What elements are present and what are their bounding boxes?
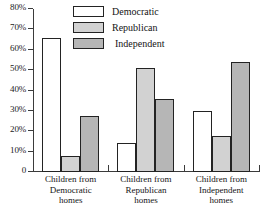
category-label-3: Children fromIndependenthomes bbox=[184, 174, 259, 206]
y-axis-tick-label: 50% bbox=[0, 64, 26, 73]
x-axis-group-separator bbox=[259, 165, 260, 172]
bar-independent-group-2 bbox=[155, 99, 174, 172]
bar-republican-group-3 bbox=[212, 136, 231, 172]
y-axis-tick-label: 80% bbox=[0, 3, 26, 12]
y-axis-tick-label: 30% bbox=[0, 105, 26, 114]
y-axis-tick-label: 0 bbox=[0, 166, 26, 175]
bar-democratic-group-3 bbox=[193, 111, 212, 172]
x-axis-category-labels: Children fromDemocratichomesChildren fro… bbox=[33, 174, 259, 210]
bar-independent-group-1 bbox=[80, 116, 99, 172]
bars-layer bbox=[33, 8, 259, 172]
bar-democratic-group-1 bbox=[42, 38, 61, 172]
bar-democratic-group-2 bbox=[117, 143, 136, 172]
bar-republican-group-1 bbox=[61, 156, 80, 172]
y-axis-tick-label: 10% bbox=[0, 146, 26, 155]
bar-republican-group-2 bbox=[136, 68, 155, 172]
bar-independent-group-3 bbox=[231, 62, 250, 172]
y-axis-tick-label: 60% bbox=[0, 44, 26, 53]
y-axis-tick-label: 70% bbox=[0, 23, 26, 32]
category-label-2: Children fromRepublicanhomes bbox=[108, 174, 183, 206]
bar-chart: Democratic Republican Independent 80%70%… bbox=[0, 0, 264, 210]
category-label-1: Children fromDemocratichomes bbox=[33, 174, 108, 206]
y-axis-tick-label: 40% bbox=[0, 85, 26, 94]
y-axis-tick-label: 20% bbox=[0, 125, 26, 134]
